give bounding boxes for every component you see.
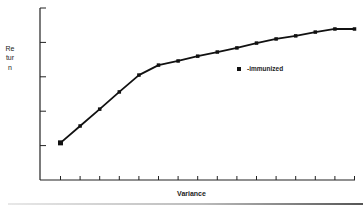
data-point (255, 41, 259, 45)
line-chart (0, 0, 363, 206)
legend-label: -immunized (247, 65, 283, 72)
legend: -immunized (237, 65, 283, 72)
data-point (196, 54, 200, 58)
data-point (176, 59, 180, 63)
scan-edge-line (8, 203, 363, 205)
plot-area (58, 27, 356, 145)
data-point (137, 73, 141, 77)
data-point (353, 27, 357, 31)
data-point (235, 46, 239, 50)
data-point (58, 140, 63, 145)
data-point (333, 27, 337, 31)
y-axis-label: Return (5, 44, 15, 72)
data-point (118, 90, 122, 94)
data-point (294, 34, 298, 38)
x-axis-label: Variance (0, 190, 363, 197)
data-point (216, 50, 220, 54)
data-point (274, 37, 278, 41)
data-point (78, 124, 82, 128)
data-point (314, 30, 318, 34)
square-marker-icon (237, 67, 241, 71)
data-point (157, 63, 161, 67)
data-point (98, 107, 102, 111)
